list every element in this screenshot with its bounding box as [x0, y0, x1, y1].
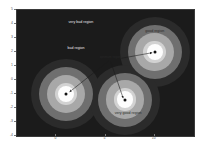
y-tick-label-4: 0	[11, 77, 13, 81]
y-tick-mark-7	[14, 37, 16, 38]
plot-clip: very bad regionbad regiongood regionvery…	[17, 10, 194, 136]
y-tick-mark-4	[14, 79, 16, 80]
y-tick-mark-6	[14, 51, 16, 52]
x-tick-label-1: 5	[104, 136, 106, 140]
plot-area: very bad regionbad regiongood regionvery…	[16, 9, 195, 137]
y-tick-label-7: 3	[11, 35, 13, 39]
y-tick-label-2: -2	[10, 105, 13, 109]
y-tick-mark-8	[14, 23, 16, 24]
y-tick-label-6: 2	[11, 49, 13, 53]
x-tick-mark-1	[105, 134, 106, 136]
arrow-to-center-optimum	[110, 61, 123, 98]
y-tick-mark-9	[14, 9, 16, 10]
arrow-to-right-optimum	[121, 53, 152, 59]
x-tick-label-0: 0	[54, 136, 56, 140]
figure-container: very bad regionbad regiongood regionvery…	[0, 0, 208, 152]
x-tick-mark-2	[154, 134, 155, 136]
x-tick-label-2: 10	[152, 136, 156, 140]
x-tick-mark-0	[55, 134, 56, 136]
y-tick-label-8: 4	[11, 21, 13, 25]
y-tick-mark-3	[14, 93, 16, 94]
y-tick-mark-1	[14, 121, 16, 122]
y-tick-label-0: -4	[10, 133, 13, 137]
y-tick-mark-2	[14, 107, 16, 108]
y-tick-label-9: 5	[11, 7, 13, 11]
arrow-to-left-optimum	[70, 61, 109, 92]
y-tick-label-5: 1	[11, 63, 13, 67]
y-tick-mark-0	[14, 135, 16, 136]
annotation-arrows	[17, 10, 194, 136]
y-tick-mark-5	[14, 65, 16, 66]
y-tick-label-1: -3	[10, 119, 13, 123]
y-tick-label-3: -1	[10, 91, 13, 95]
